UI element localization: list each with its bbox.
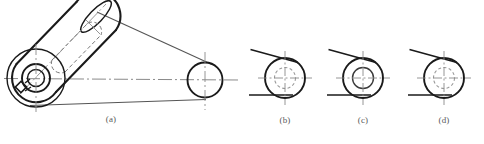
barrel-axis-tick	[86, 20, 100, 34]
figure-label-c: (c)	[358, 115, 369, 125]
detail-view-d	[408, 50, 471, 106]
detail-view-b	[249, 50, 312, 106]
barrel-left-wall	[17, 2, 77, 64]
figure-label-b: (b)	[279, 115, 290, 125]
figure-label-d: (d)	[438, 115, 449, 125]
barrel-top-cap	[77, 0, 121, 30]
body-upper-edge	[97, 12, 212, 65]
main-view-a	[4, 0, 238, 113]
figure-label-a: (a)	[106, 114, 117, 124]
engineering-drawing-svg	[0, 0, 484, 144]
hidden-slot	[51, 22, 101, 73]
detail-view-c	[327, 50, 390, 106]
centerline-horizontal	[4, 79, 238, 81]
drawing-canvas: (a) (b) (c) (d)	[0, 0, 484, 144]
body-lower-edge	[30, 100, 206, 106]
